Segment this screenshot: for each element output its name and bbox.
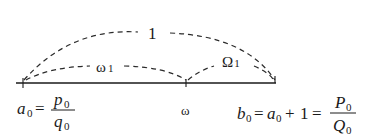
svg-text:0: 0 xyxy=(27,107,33,119)
arc-omega1-label: ω1 xyxy=(96,59,113,75)
svg-text:=: = xyxy=(254,104,264,123)
label-omega: ω xyxy=(181,103,190,118)
svg-text:0: 0 xyxy=(64,98,70,110)
svg-text:0: 0 xyxy=(64,120,70,132)
svg-text:P: P xyxy=(334,93,345,112)
svg-text:0: 0 xyxy=(246,112,252,124)
arc-Omega1-right xyxy=(254,66,273,79)
svg-text:Q: Q xyxy=(333,116,345,135)
svg-text:0: 0 xyxy=(346,124,352,136)
svg-text:0: 0 xyxy=(276,112,282,124)
label-a0: a 0 = p 0 q 0 xyxy=(17,90,75,132)
arc-Omega1-left xyxy=(188,66,214,80)
label-b0: b 0 = a 0 + 1 = P 0 Q 0 xyxy=(237,93,356,136)
arc-one-label: 1 xyxy=(148,24,157,43)
svg-text:0: 0 xyxy=(346,101,352,113)
svg-text:b: b xyxy=(237,104,246,123)
svg-text:a: a xyxy=(17,99,26,118)
svg-text:=: = xyxy=(312,104,322,123)
svg-text:1: 1 xyxy=(300,104,309,123)
arc-omega1-right xyxy=(124,66,186,80)
arc-omega1-left xyxy=(26,66,90,80)
svg-text:a: a xyxy=(267,104,276,123)
arc-one xyxy=(24,32,138,80)
svg-text:q: q xyxy=(54,112,63,131)
svg-text:p: p xyxy=(53,90,63,109)
arc-Omega1-label: Ω1 xyxy=(222,54,240,70)
number-line-diagram: 1 ω1 Ω1 a 0 = p 0 q 0 ω b 0 = a 0 + 1 = … xyxy=(0,0,369,140)
svg-text:+: + xyxy=(285,104,295,123)
svg-text:=: = xyxy=(35,99,45,118)
